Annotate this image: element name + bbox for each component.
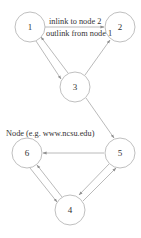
node-1: 1 [15,12,45,42]
link-graph-diagram: 1 2 3 5 6 4 inlink to node 2 outlink fro… [0,0,141,238]
node-2-label: 2 [118,22,123,32]
edge-3-to-2 [85,40,110,75]
node-1-label: 1 [28,22,33,32]
node-annotation: Node (e.g. www.ncsu.edu) [6,129,95,138]
node-4: 4 [55,195,85,225]
node-5-label: 5 [118,148,123,158]
edge-4-to-5 [83,168,116,201]
edges [30,27,116,202]
inlink-annotation: inlink to node 2 [49,17,101,26]
node-3-label: 3 [73,82,78,92]
node-6-label: 6 [25,148,30,158]
outlink-annotation: outlink from node 1 [46,29,112,38]
node-4-label: 4 [68,205,73,215]
node-5: 5 [105,138,135,168]
node-3: 3 [60,72,90,102]
node-6: 6 [12,138,42,168]
